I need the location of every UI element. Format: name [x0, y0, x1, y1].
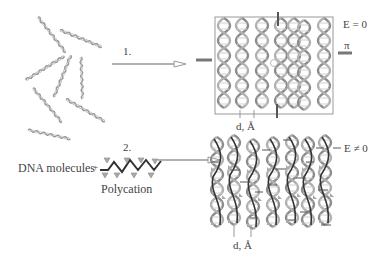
spacing-label-bottom: d, Å — [233, 240, 252, 251]
energy-nonzero-label: E ≠ 0 — [344, 143, 368, 154]
diagram-canvas — [0, 0, 385, 263]
dna-array-box-uncharged — [196, 12, 352, 118]
dna-polycation-complex — [211, 135, 341, 237]
step-1-label: 1. — [123, 46, 131, 57]
polycation-label: Polycation — [101, 183, 152, 195]
osmotic-pressure-label: π — [344, 40, 350, 51]
dna-molecules-label: DNA molecules — [18, 162, 95, 174]
polycation-chain — [100, 158, 161, 178]
energy-zero-label: E = 0 — [343, 19, 367, 30]
arrow-step-1 — [112, 61, 186, 67]
spacing-label-top: d, Å — [236, 121, 255, 132]
step-2-label: 2. — [123, 142, 131, 153]
free-dna-molecules — [25, 16, 105, 140]
plus-sign: + — [93, 163, 98, 172]
